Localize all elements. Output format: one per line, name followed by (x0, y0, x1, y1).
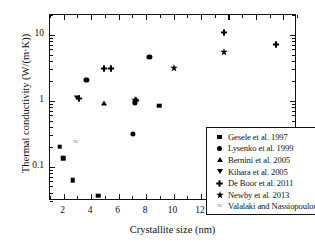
y-minor-tick (50, 81, 53, 82)
x-minor-tick (105, 196, 106, 199)
x-minor-tick (77, 15, 78, 18)
x-tick (174, 194, 175, 199)
x-tick-label: 4 (78, 205, 102, 215)
y-minor-tick (292, 38, 295, 39)
legend-item: ≈Valalaki and Nassiopoulou 2013 (211, 201, 315, 213)
y-minor-tick (50, 111, 53, 112)
x-tick-label: 8 (133, 205, 157, 215)
y-minor-tick (50, 121, 53, 122)
data-point (61, 156, 66, 161)
legend-symbol: ≈ (211, 203, 228, 209)
y-tick-label: 10 (18, 28, 44, 38)
y-minor-tick (50, 38, 53, 39)
y-minor-tick (292, 69, 295, 70)
x-tick (201, 194, 202, 199)
y-tick (50, 101, 55, 102)
y-tick-label: 0.1 (18, 160, 44, 170)
x-tick (228, 15, 229, 20)
x-minor-tick (297, 15, 298, 18)
data-point: ≈ (73, 139, 77, 145)
x-minor-tick (105, 15, 106, 18)
y-minor-tick (50, 193, 53, 194)
y-minor-tick (292, 55, 295, 56)
y-minor-tick (292, 104, 295, 105)
x-tick (174, 15, 175, 20)
y-minor-tick (50, 201, 53, 202)
legend-item: Newby et al. 2013 (211, 189, 315, 201)
legend-item: De Boor et al. 2011 (211, 177, 315, 189)
legend-item: Bernini et al. 2005 (211, 154, 315, 166)
y-minor-tick (292, 61, 295, 62)
square-marker (157, 103, 162, 108)
legend-symbol (211, 157, 228, 162)
circle-marker (84, 78, 89, 83)
square-marker (96, 193, 101, 198)
plus-marker (216, 180, 223, 187)
plus-marker (273, 41, 280, 48)
plus-marker (108, 65, 115, 72)
legend-label: Lysenko et al. 1999 (228, 143, 293, 153)
y-minor-tick (292, 107, 295, 108)
x-tick (91, 15, 92, 20)
legend-item: Lysenko et al. 1999 (211, 143, 315, 155)
y-minor-tick (292, 121, 295, 122)
y-minor-tick (50, 181, 53, 182)
legend-label: Kihara et al. 2005 (228, 167, 288, 177)
data-point (101, 100, 107, 105)
data-point (84, 78, 89, 83)
y-minor-tick (292, 115, 295, 116)
data-point (130, 132, 135, 137)
x-minor-tick (270, 15, 271, 18)
legend-symbol (211, 169, 228, 174)
y-tick (290, 101, 295, 102)
data-point (157, 103, 162, 108)
square-marker (70, 178, 75, 183)
data-point (70, 178, 75, 183)
y-minor-tick (50, 55, 53, 56)
triangle-down-marker (217, 169, 223, 174)
legend-item: Kihara et al. 2005 (211, 166, 315, 178)
legend-label: Gesele et al. 1997 (228, 132, 288, 142)
legend: Gesele et al. 1997Lysenko et al. 1999Ber… (206, 127, 315, 215)
y-minor-tick (50, 177, 53, 178)
plus-marker (75, 95, 82, 102)
y-tick (50, 35, 55, 36)
triangle-up-marker (101, 100, 107, 105)
x-tick (146, 15, 147, 20)
x-tick (119, 15, 120, 20)
data-point (57, 144, 62, 149)
legend-item: Gesele et al. 1997 (211, 131, 315, 143)
x-minor-tick (160, 196, 161, 199)
x-minor-tick (50, 196, 51, 199)
star-marker (131, 96, 139, 104)
y-minor-tick (292, 111, 295, 112)
legend-label: Valalaki and Nassiopoulou 2013 (228, 201, 315, 211)
x-minor-tick (242, 15, 243, 18)
x-tick (91, 194, 92, 199)
x-tick-label: 2 (51, 205, 75, 215)
x-tick (64, 194, 65, 199)
x-minor-tick (160, 15, 161, 18)
y-tick-label: 1 (18, 94, 44, 104)
x-minor-tick (187, 15, 188, 18)
x-minor-tick (187, 196, 188, 199)
y-minor-tick (50, 107, 53, 108)
star-marker (170, 64, 178, 72)
star-marker (220, 48, 228, 56)
y-minor-tick (50, 69, 53, 70)
y-minor-tick (292, 45, 295, 46)
x-tick (283, 15, 284, 20)
y-minor-tick (50, 127, 53, 128)
y-tick (290, 35, 295, 36)
y-minor-tick (50, 115, 53, 116)
plot-area: ≈ Gesele et al. 1997Lysenko et al. 1999B… (49, 14, 296, 200)
data-point (147, 54, 152, 59)
x-minor-tick (132, 196, 133, 199)
x-tick (146, 194, 147, 199)
y-minor-tick (50, 173, 53, 174)
data-point (170, 58, 178, 76)
y-minor-tick (292, 49, 295, 50)
legend-label: De Boor et al. 2011 (228, 178, 293, 188)
data-point (220, 42, 228, 60)
x-axis-title: Crystallite size (nm) (49, 224, 296, 235)
